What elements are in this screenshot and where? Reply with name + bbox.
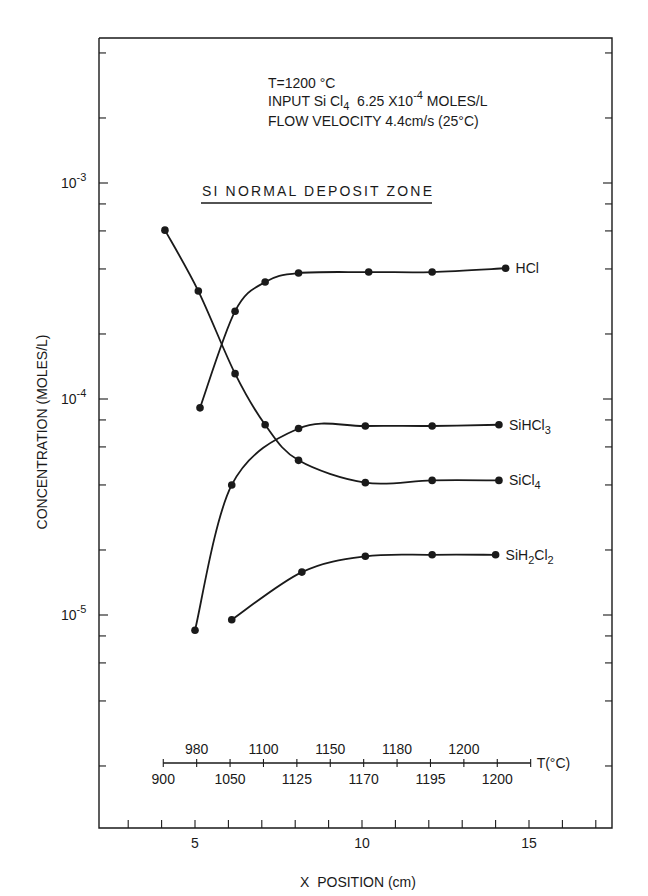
series-label: SiHCl3 <box>509 417 551 436</box>
data-point <box>365 268 373 276</box>
series-HCl: HCl <box>196 260 539 411</box>
data-point <box>231 307 239 315</box>
series-SiCl4: SiCl4 <box>161 226 541 491</box>
data-point <box>362 479 370 487</box>
axis-ticks: 10-310-410-551015 <box>61 53 612 851</box>
temperature-label-above: 1180 <box>382 741 412 757</box>
series-line <box>195 424 499 631</box>
data-series: HClSiHCl3SiCl4SiH2Cl2 <box>161 226 554 634</box>
series-line <box>200 268 506 408</box>
condition-temperature: T=1200 °C <box>268 75 335 91</box>
data-point <box>298 568 306 576</box>
data-point <box>362 422 370 430</box>
temperature-label-above: 1200 <box>448 741 479 757</box>
y-tick-label: 10-5 <box>61 603 86 623</box>
series-SiHCl3: SiHCl3 <box>191 417 551 634</box>
temperature-label-below: 1200 <box>482 771 513 787</box>
axes-box <box>99 38 612 828</box>
series-label: HCl <box>516 260 539 276</box>
x-tick-label: 15 <box>521 835 537 851</box>
y-tick-label: 10-4 <box>61 387 86 407</box>
y-axis-label: CONCENTRATION (MOLES/L) <box>34 335 50 530</box>
data-point <box>231 370 239 378</box>
data-point <box>228 481 236 489</box>
data-point <box>196 404 204 412</box>
temperature-label-above: 1100 <box>248 741 278 757</box>
temperature-label-above: 980 <box>185 741 209 757</box>
data-point <box>228 616 236 624</box>
plot-frame <box>99 38 612 828</box>
temperature-label-below: 1170 <box>349 771 379 787</box>
series-SiH2Cl2: SiH2Cl2 <box>228 547 554 624</box>
temperature-label-below: 1125 <box>282 771 312 787</box>
data-point <box>161 226 169 234</box>
temperature-label-below: 1195 <box>415 771 445 787</box>
data-point <box>495 421 503 429</box>
series-line <box>232 555 496 620</box>
data-point <box>428 268 436 276</box>
data-point <box>261 421 269 429</box>
annotations: T=1200 °C INPUT Si Cl4 6.25 X10-4 MOLES/… <box>34 75 488 890</box>
data-point <box>191 626 199 634</box>
series-label: SiCl4 <box>509 472 541 491</box>
data-point <box>502 264 510 272</box>
temperature-scale: 9001050112511701195120098011001150118012… <box>152 741 571 787</box>
x-tick-label: 10 <box>354 835 370 851</box>
data-point <box>295 425 303 433</box>
data-point <box>295 269 303 277</box>
condition-input: INPUT Si Cl4 6.25 X10-4 MOLES/L <box>268 89 488 112</box>
data-point <box>428 422 436 430</box>
temperature-label-above: 1150 <box>315 741 345 757</box>
x-axis-label: X POSITION (cm) <box>300 874 416 890</box>
temperature-label-below: 900 <box>152 771 176 787</box>
data-point <box>495 477 503 485</box>
data-point <box>195 287 203 295</box>
data-point <box>428 477 436 485</box>
temperature-label-below: 1050 <box>214 771 245 787</box>
condition-flow-velocity: FLOW VELOCITY 4.4cm/s (25°C) <box>268 113 479 129</box>
data-point <box>261 278 269 286</box>
concentration-chart: 10-310-410-551015 T=1200 °C INPUT Si Cl4… <box>0 0 648 896</box>
data-point <box>428 551 436 559</box>
series-line <box>165 230 499 484</box>
series-label: SiH2Cl2 <box>506 547 554 566</box>
x-tick-label: 5 <box>191 835 199 851</box>
y-tick-label: 10-3 <box>61 171 86 191</box>
temperature-unit-label: T(°C) <box>537 755 571 771</box>
data-point <box>295 457 303 465</box>
data-point <box>492 551 500 559</box>
zone-label: SI NORMAL DEPOSIT ZONE <box>202 183 432 199</box>
data-point <box>362 552 370 560</box>
